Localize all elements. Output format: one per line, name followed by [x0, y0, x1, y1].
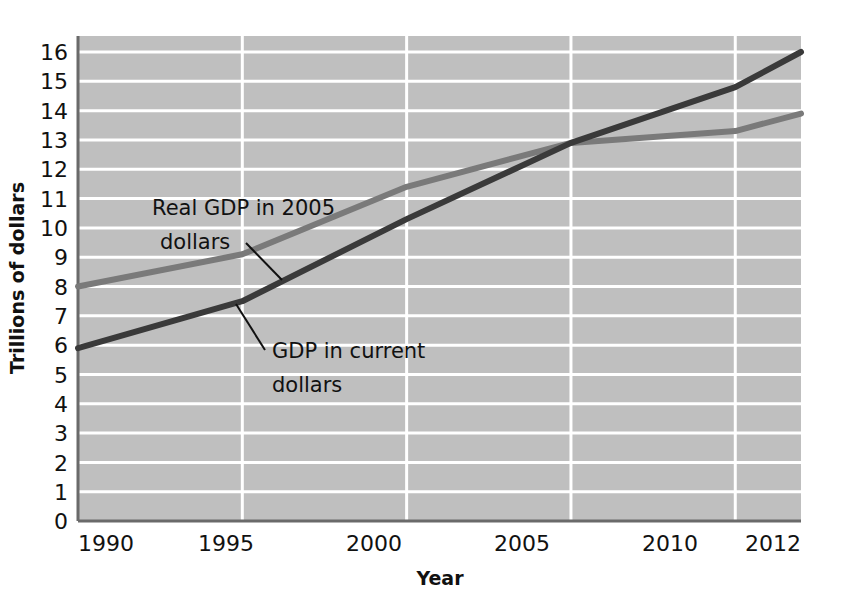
y-tick-2: 2	[54, 451, 68, 476]
y-axis-tick-labels: 16 15 14 13 12 11 10 9 8 7 6 5 4 3 2 1 0	[40, 40, 68, 534]
y-axis-title: Trillions of dollars	[6, 182, 28, 374]
y-tick-8: 8	[54, 275, 68, 300]
chart-container: 16 15 14 13 12 11 10 9 8 7 6 5 4 3 2 1 0…	[0, 0, 843, 598]
x-tick-2000: 2000	[346, 531, 402, 556]
y-tick-13: 13	[40, 128, 68, 153]
y-tick-7: 7	[54, 304, 68, 329]
y-tick-3: 3	[54, 421, 68, 446]
y-tick-0: 0	[54, 509, 68, 534]
y-tick-10: 10	[40, 216, 68, 241]
plot-area-background	[78, 36, 801, 521]
x-tick-2012: 2012	[745, 531, 801, 556]
y-tick-16: 16	[40, 40, 68, 65]
x-tick-1990: 1990	[78, 531, 134, 556]
x-tick-2005: 2005	[494, 531, 550, 556]
annotation-real-gdp-line2: dollars	[160, 230, 230, 254]
y-tick-6: 6	[54, 333, 68, 358]
y-tick-12: 12	[40, 157, 68, 182]
annotation-current-gdp-line2: dollars	[272, 373, 342, 397]
y-tick-11: 11	[40, 187, 68, 212]
x-tick-1995: 1995	[198, 531, 254, 556]
y-tick-9: 9	[54, 245, 68, 270]
y-tick-14: 14	[40, 99, 68, 124]
y-tick-15: 15	[40, 69, 68, 94]
y-tick-5: 5	[54, 363, 68, 388]
x-tick-2010: 2010	[642, 531, 698, 556]
y-tick-1: 1	[54, 480, 68, 505]
x-axis-title: Year	[415, 567, 464, 589]
annotation-real-gdp-line1: Real GDP in 2005	[152, 196, 335, 220]
annotation-current-gdp-line1: GDP in current	[272, 339, 425, 363]
x-axis-tick-labels: 1990 1995 2000 2005 2010 2012	[78, 531, 801, 556]
gdp-line-chart: 16 15 14 13 12 11 10 9 8 7 6 5 4 3 2 1 0…	[0, 0, 843, 598]
y-tick-4: 4	[54, 392, 68, 417]
